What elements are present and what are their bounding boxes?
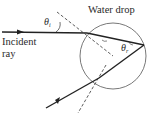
exit-ray [46, 78, 99, 108]
refracted-ray [87, 33, 144, 45]
theta-r-label: θr [121, 42, 129, 54]
normal-line-entry [57, 12, 113, 56]
incident-ray [2, 32, 87, 33]
water-drop-diagram: Water drop Incident ray θi θr [0, 0, 152, 119]
normal-line-exit [78, 65, 106, 113]
theta-i-label: θi [44, 16, 51, 28]
theta-i-arc [56, 22, 60, 32]
refraction-angle-mark [102, 40, 107, 41]
incident-label-line1: Incident [2, 36, 36, 47]
incident-arrowhead-icon [17, 30, 24, 35]
incident-label-line2: ray [2, 48, 16, 59]
water-drop-label: Water drop [88, 4, 135, 15]
